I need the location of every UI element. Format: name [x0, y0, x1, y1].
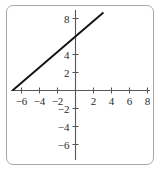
y-axis-tick-label: 2 [64, 67, 70, 78]
y-axis-tick-label: 4 [64, 49, 70, 60]
y-axis-tick-label: −2 [58, 103, 70, 114]
x-axis-tick-label: 2 [91, 96, 97, 107]
data-line-group [13, 13, 104, 91]
x-axis-tick-label: −4 [34, 96, 46, 107]
x-axis-tick-label: 8 [145, 96, 151, 107]
x-axis-tick-label: 4 [109, 96, 115, 107]
x-axis-tick-label: 6 [127, 96, 133, 107]
coordinate-plane-svg [0, 0, 161, 172]
y-axis-tick-label: 8 [64, 13, 70, 24]
y-axis-tick-label: −6 [58, 139, 70, 150]
x-axis-tick-label: −6 [16, 96, 28, 107]
tick-marks-group [22, 19, 148, 145]
graph-figure: −6−4−22468−6−4−2248 [0, 0, 161, 172]
plotted-line [13, 13, 104, 91]
plot-area [0, 0, 161, 172]
y-axis-tick-label: −4 [58, 121, 70, 132]
